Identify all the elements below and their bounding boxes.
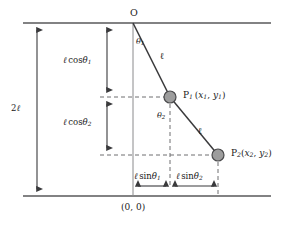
sin-theta2-label: ℓ sinθ2 (176, 172, 203, 182)
origin-label: (0, 0) (121, 203, 145, 212)
point-1-label: P1 (x1, y1) (183, 91, 225, 100)
sin-theta1-sin-text: sin (139, 171, 152, 181)
total-length-ell-symbol: ℓ (16, 103, 20, 113)
cos-theta1-subscript: 1 (88, 59, 92, 65)
rod-1 (133, 23, 170, 97)
sin-theta2-sin-text: sin (181, 171, 194, 181)
angle-theta1-subscript: 1 (141, 40, 144, 46)
total-length-label: 2ℓ (11, 104, 20, 113)
rod-2 (170, 97, 218, 155)
sin-theta2-subscript: 2 (199, 175, 203, 181)
cos-theta2-subscript: 2 (88, 121, 92, 127)
cos-theta2-cos-text: cos (68, 117, 82, 127)
angle-theta2-label: θ2 (157, 112, 165, 121)
sin-theta1-subscript: 1 (157, 175, 161, 181)
angle-theta1-label: θ1 (136, 38, 144, 47)
sin-theta1-label: ℓ sinθ1 (134, 172, 161, 182)
point-2-paren-close: ) (268, 148, 272, 158)
point-1-paren-close: ) (222, 90, 226, 100)
bob-2-mass (212, 149, 224, 161)
cos-theta1-cos-text: cos (68, 55, 82, 65)
cos-theta1-label: ℓ cosθ1 (63, 56, 91, 66)
bob-1-mass (164, 91, 176, 103)
pivot-label: O (130, 8, 138, 18)
point-2-label: P2(x2, y2) (231, 149, 272, 158)
rod-1-length-label: ℓ (160, 52, 164, 61)
diagram-canvas (0, 0, 288, 232)
rod-2-length-label: ℓ (198, 127, 202, 136)
double-pendulum-figure: O 2ℓ ℓ cosθ1 ℓ cosθ2 θ1 θ2 ℓ ℓ P1 (x1, y… (0, 0, 288, 232)
cos-theta2-label: ℓ cosθ2 (63, 118, 91, 128)
angle-theta2-subscript: 2 (162, 114, 165, 120)
